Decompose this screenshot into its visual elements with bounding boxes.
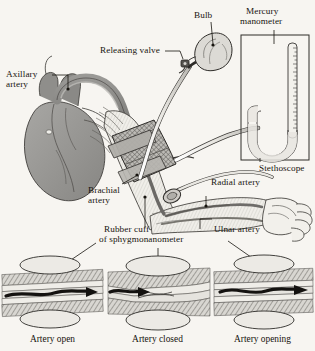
label-bulb: Bulb (194, 10, 212, 20)
label-brachial-artery-line1: Brachial (88, 185, 120, 195)
label-brachial-artery-line2: artery (88, 195, 110, 205)
blood-pressure-diagram: Bulb Mercury manometer Releasing valve A… (0, 0, 315, 351)
label-releasing-valve: Releasing valve (100, 45, 160, 55)
label-rubber-cuff-line1: Rubber cuff (104, 224, 149, 234)
label-mercury-manometer-line1: Mercury (246, 6, 278, 16)
label-mercury-manometer-line2: manometer (240, 16, 282, 26)
caption-artery-open: Artery open (0, 334, 105, 344)
label-ulnar-artery: Ulnar artery (214, 224, 260, 234)
label-radial-artery: Radial artery (211, 177, 260, 187)
caption-artery-opening: Artery opening (210, 334, 315, 344)
label-axillary-artery-line2: artery (6, 79, 28, 89)
label-rubber-cuff-line2: of sphygmonanometer (99, 234, 183, 244)
label-axillary-artery-line1: Axillary (6, 69, 37, 79)
caption-artery-closed: Artery closed (105, 334, 210, 344)
label-stethoscope: Stethoscope (259, 163, 305, 173)
